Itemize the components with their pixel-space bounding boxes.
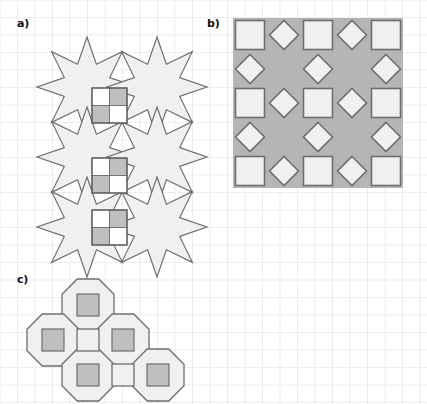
tiling-illustrations	[0, 0, 427, 404]
checker-cell	[92, 176, 110, 194]
octagon-inner-square	[77, 364, 99, 386]
octagon-inner-square	[112, 329, 134, 351]
square-tile	[236, 89, 265, 118]
checker-tile	[92, 88, 127, 123]
square-tile	[236, 21, 265, 50]
checker-cell	[110, 176, 128, 194]
panel-a-artwork	[37, 37, 207, 277]
checker-cell	[92, 106, 110, 124]
square-tile	[236, 157, 265, 186]
square-tile	[372, 89, 401, 118]
panel-label-a: a)	[17, 18, 29, 29]
octagon-inner-square	[77, 294, 99, 316]
checker-cell	[92, 228, 110, 246]
panel-label-c: c)	[17, 274, 28, 285]
square-tile	[304, 21, 333, 50]
square-tile	[304, 157, 333, 186]
panel-label-b: b)	[207, 18, 220, 29]
checker-cell	[92, 210, 110, 228]
figure-canvas: a) b) c)	[0, 0, 427, 404]
checker-cell	[110, 210, 128, 228]
joint-square-tile	[112, 364, 134, 386]
checker-cell	[92, 158, 110, 176]
octagon-inner-square	[147, 364, 169, 386]
checker-tile	[92, 210, 127, 245]
checker-cell	[110, 106, 128, 124]
square-tile	[372, 157, 401, 186]
panel-c-artwork	[27, 279, 184, 401]
checker-tile	[92, 158, 127, 193]
checker-cell	[110, 88, 128, 106]
panel-b-artwork	[233, 18, 403, 188]
checker-cell	[92, 88, 110, 106]
joint-square-tile	[77, 329, 99, 351]
checker-cell	[110, 158, 128, 176]
octagon-inner-square	[42, 329, 64, 351]
square-tile	[372, 21, 401, 50]
checker-cell	[110, 228, 128, 246]
square-tile	[304, 89, 333, 118]
